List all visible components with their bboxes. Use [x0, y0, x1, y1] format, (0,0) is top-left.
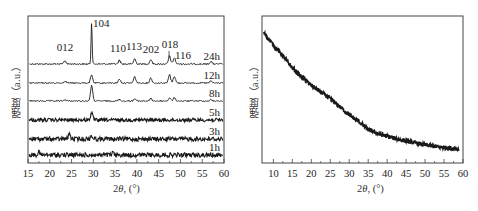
series-label-1h: 1h: [209, 141, 221, 153]
peak-label-113: 113: [126, 40, 143, 52]
xrd-curve-5h: [29, 112, 222, 122]
x-tick-label: 55: [197, 168, 208, 179]
series-label-3h: 3h: [209, 125, 221, 137]
x-tick-label: 10: [268, 168, 279, 179]
left-xrd-chart-panel: 1520253035404550556024h12h8h5h3h1h012104…: [0, 0, 240, 211]
x-tick-label: 45: [401, 168, 412, 179]
x-tick-label: 45: [153, 168, 164, 179]
x-tick-label: 30: [88, 168, 99, 179]
xrd-curve-8h: [29, 85, 222, 102]
right-amorphous-chart-panel: 1015202530354045505560 强度（a.u.） 2θ, (°): [240, 0, 478, 211]
peak-label-116: 116: [175, 49, 192, 61]
x-tick-label: 50: [420, 168, 431, 179]
right-y-axis-label: 强度（a.u.）: [247, 60, 262, 118]
x-label-suffix: , (°): [367, 183, 383, 194]
x-tick-label: 20: [45, 168, 56, 179]
x-tick-label: 55: [439, 168, 450, 179]
right-x-axis-label: 2θ, (°): [357, 183, 384, 194]
xrd-curve-1h: [29, 150, 222, 157]
series-label-8h: 8h: [209, 87, 221, 99]
x-tick-label: 25: [325, 168, 336, 179]
x-tick-label: 60: [458, 168, 469, 179]
x-tick-label: 20: [306, 168, 317, 179]
x-tick-label: 15: [287, 168, 298, 179]
x-tick-label: 60: [219, 168, 230, 179]
x-tick-label: 25: [66, 168, 77, 179]
x-tick-label: 35: [110, 168, 121, 179]
series-label-12h: 12h: [204, 69, 221, 81]
x-tick-label: 30: [344, 168, 355, 179]
right-amorphous-chart: 1015202530354045505560: [240, 0, 478, 211]
peak-label-110: 110: [110, 42, 127, 54]
series-label-24h: 24h: [204, 50, 221, 62]
peak-label-012: 012: [57, 41, 74, 53]
x-tick-label: 50: [175, 168, 186, 179]
left-x-axis-label: 2θ, (°): [113, 183, 140, 194]
x-label-suffix: , (°): [123, 183, 139, 194]
xrd-curve-12h: [29, 75, 222, 84]
left-y-axis-label: 强度（a.u.）: [9, 60, 24, 118]
right-plot-frame: [262, 16, 463, 163]
series-label-5h: 5h: [209, 106, 221, 118]
x-tick-label: 40: [132, 168, 143, 179]
x-tick-label: 15: [23, 168, 34, 179]
left-xrd-chart: 1520253035404550556024h12h8h5h3h1h012104…: [0, 0, 240, 211]
x-tick-label: 40: [382, 168, 393, 179]
amorphous-curve: [264, 32, 459, 151]
left-plot-frame: [28, 16, 224, 163]
xrd-curve-3h: [29, 133, 222, 141]
peak-label-202: 202: [143, 43, 160, 55]
x-tick-label: 35: [363, 168, 374, 179]
peak-label-104: 104: [93, 17, 110, 29]
